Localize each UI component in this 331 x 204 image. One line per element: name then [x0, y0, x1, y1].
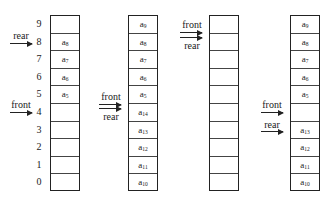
queue-cell-8: [210, 34, 238, 52]
rear-arrow-icon: [99, 108, 121, 109]
queue-cell-7: [210, 51, 238, 69]
queue-array-2: a9 a8 a7 a6 a5 a14 a13 a12 a11 a10: [128, 15, 158, 191]
index-label: 9: [34, 15, 44, 33]
index-label: 2: [34, 138, 44, 156]
queue-cell-4: [291, 104, 319, 122]
queue-cell-7: a7: [51, 51, 79, 69]
index-label: 6: [34, 68, 44, 86]
queue-cell-2: a12: [129, 139, 157, 157]
front-label: front: [256, 100, 288, 110]
index-label: 8: [34, 33, 44, 51]
queue-cell-2: a12: [291, 139, 319, 157]
queue-array-4: a9 a8 a7 a6 a5 a13 a12 a11 a10: [290, 15, 320, 191]
queue-cell-0: [210, 174, 238, 192]
queue-cell-1: [51, 157, 79, 175]
queue-cell-9: a9: [291, 16, 319, 34]
queue-cell-1: a11: [291, 157, 319, 175]
front-arrow-icon: [10, 112, 32, 113]
queue-cell-3: [51, 122, 79, 140]
front-label: front: [95, 92, 127, 102]
queue-cell-7: a7: [129, 51, 157, 69]
queue-cell-4: a14: [129, 104, 157, 122]
queue-cell-5: [210, 86, 238, 104]
queue-array-1: a8 a7 a6 a5: [50, 15, 80, 191]
front-label: front: [176, 20, 208, 30]
queue-cell-6: a6: [129, 69, 157, 87]
rear-label: rear: [8, 31, 34, 41]
queue-cell-2: [51, 139, 79, 157]
queue-cell-8: a8: [129, 34, 157, 52]
front-label: front: [6, 100, 36, 110]
index-label: 1: [34, 156, 44, 174]
rear-arrow-icon: [180, 37, 202, 38]
queue-cell-5: a5: [291, 86, 319, 104]
queue-cell-3: a13: [129, 122, 157, 140]
queue-cell-6: a6: [291, 69, 319, 87]
queue-cell-6: [210, 69, 238, 87]
queue-cell-1: [210, 157, 238, 175]
queue-array-3: [209, 15, 239, 191]
rear-arrow-icon: [10, 43, 32, 44]
queue-cell-2: [210, 139, 238, 157]
queue-cell-5: a5: [51, 86, 79, 104]
rear-arrow-icon: [261, 131, 283, 132]
queue-cell-1: a11: [129, 157, 157, 175]
queue-cell-3: [210, 122, 238, 140]
index-label: 3: [34, 121, 44, 139]
front-arrow-icon: [261, 112, 283, 113]
queue-cell-3: a13: [291, 122, 319, 140]
queue-cell-5: a5: [129, 86, 157, 104]
queue-cell-0: a10: [129, 174, 157, 192]
queue-cell-6: a6: [51, 69, 79, 87]
queue-cell-9: [210, 16, 238, 34]
queue-cell-0: a10: [291, 174, 319, 192]
index-label: 7: [34, 50, 44, 68]
queue-cell-7: a7: [291, 51, 319, 69]
queue-cell-4: [51, 104, 79, 122]
index-label: 0: [34, 173, 44, 191]
queue-cell-0: [51, 174, 79, 192]
queue-cell-8: a8: [51, 34, 79, 52]
rear-label: rear: [98, 112, 124, 122]
queue-cell-9: a9: [129, 16, 157, 34]
front-arrow-icon: [180, 32, 202, 33]
queue-cell-9: [51, 16, 79, 34]
rear-label: rear: [179, 41, 205, 51]
queue-cell-4: [210, 104, 238, 122]
queue-cell-8: a8: [291, 34, 319, 52]
